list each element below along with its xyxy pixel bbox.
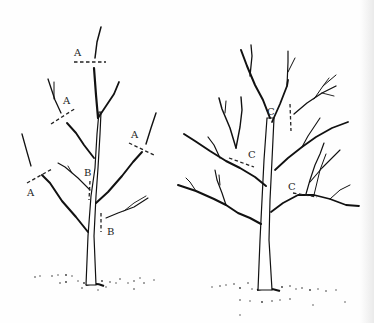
cut-marker-b-upper xyxy=(89,181,90,200)
right-tree xyxy=(178,45,359,316)
cut-marker-a-upper-left xyxy=(51,108,76,124)
left-tree xyxy=(22,27,156,291)
label-a: A xyxy=(62,95,71,106)
right-trunk xyxy=(258,118,274,290)
illustration-canvas: A A A A B B xyxy=(0,0,374,323)
cut-marker-c-upper xyxy=(290,104,291,131)
right-ground xyxy=(211,282,345,315)
label-a: A xyxy=(26,187,35,198)
label-a: A xyxy=(73,47,82,58)
pruning-diagram: A A A A B B xyxy=(0,0,374,323)
label-b: B xyxy=(107,226,114,237)
label-a: A xyxy=(130,129,139,140)
label-c: C xyxy=(267,106,275,117)
left-trunk xyxy=(86,112,101,285)
label-c: C xyxy=(288,181,296,192)
label-c: C xyxy=(248,149,256,160)
label-b: B xyxy=(84,167,91,178)
